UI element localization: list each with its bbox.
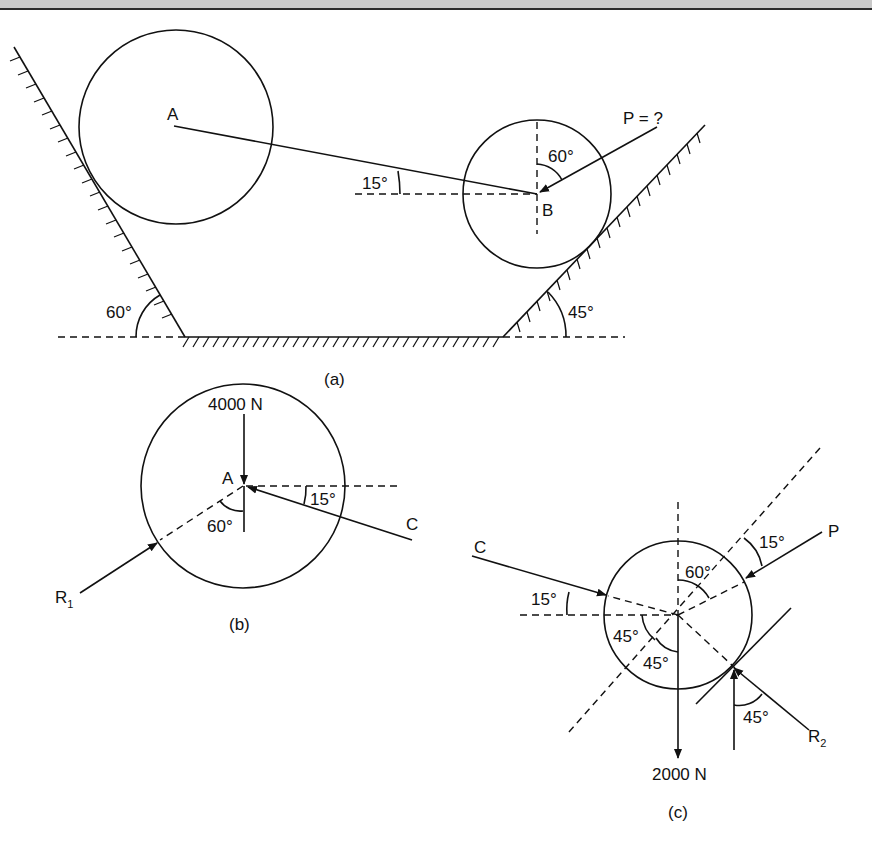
caption-c: (c)	[668, 803, 688, 822]
figure-a: 60° 45° A B 15° 60° P = ? (a)	[10, 30, 705, 389]
weight-4000-label: 4000 N	[208, 395, 263, 414]
caption-b: (b)	[229, 615, 250, 634]
angle-60-arc	[678, 580, 709, 598]
angle-45b-label: 45°	[643, 654, 669, 673]
force-c-label-c: C	[474, 538, 486, 557]
figure-b: 4000 N A 15° C 60° R1 (b)	[55, 384, 418, 634]
center-b-label: B	[542, 201, 553, 220]
c-angle-label: 15°	[310, 490, 336, 509]
r2-line-extension	[678, 615, 735, 668]
r2-angle-arc	[734, 694, 762, 706]
c-force-line-extension	[608, 596, 678, 615]
force-p-label: P = ?	[623, 109, 663, 128]
c-angle-arc-c	[567, 592, 569, 615]
reaction-r2-label: R2	[808, 727, 826, 749]
center-a-label-b: A	[222, 469, 234, 488]
right-wall-hatching	[517, 133, 700, 332]
force-c-label: C	[406, 515, 418, 534]
floor-hatching	[183, 337, 499, 347]
reaction-r1-label: R1	[55, 588, 73, 610]
c-angle-label-c: 15°	[531, 590, 557, 609]
angle-60-label: 60°	[685, 563, 711, 582]
left-angle-arc	[136, 295, 160, 337]
p-line-extension	[678, 582, 744, 615]
figure-c: 2000 N C 15° P 15° 60° 45° 45° 45° R2 (c…	[472, 448, 839, 822]
right-angle-arc	[548, 292, 566, 337]
weight-2000-label: 2000 N	[652, 765, 707, 784]
force-p-label-c: P	[828, 522, 839, 541]
caption-a: (a)	[324, 370, 345, 389]
angle-45a-arc	[642, 615, 655, 640]
r1-angle-arc	[220, 501, 243, 511]
p-angle-arc	[537, 164, 562, 180]
p-angle-label-c: 15°	[759, 533, 785, 552]
tangent-plane-line	[696, 608, 791, 704]
c-angle-arc	[304, 486, 306, 504]
r2-angle-label: 45°	[743, 708, 769, 727]
ab-angle-arc	[398, 171, 400, 194]
c-45-line	[568, 448, 820, 733]
r1-angle-label: 60°	[207, 517, 233, 536]
angle-45a-label: 45°	[613, 627, 639, 646]
ab-angle-label: 15°	[362, 174, 388, 193]
angle-45b-arc	[656, 638, 678, 652]
statics-diagram: 60° 45° A B 15° 60° P = ? (a) 4000 N A	[0, 0, 872, 853]
left-wall-angle-label: 60°	[106, 303, 132, 322]
reaction-r1-arrow	[80, 543, 157, 593]
center-a-label: A	[167, 105, 179, 124]
ab-connector	[174, 126, 537, 194]
right-wall-angle-label: 45°	[568, 303, 594, 322]
left-wall-hatching	[10, 57, 172, 318]
p-angle-label: 60°	[548, 147, 574, 166]
